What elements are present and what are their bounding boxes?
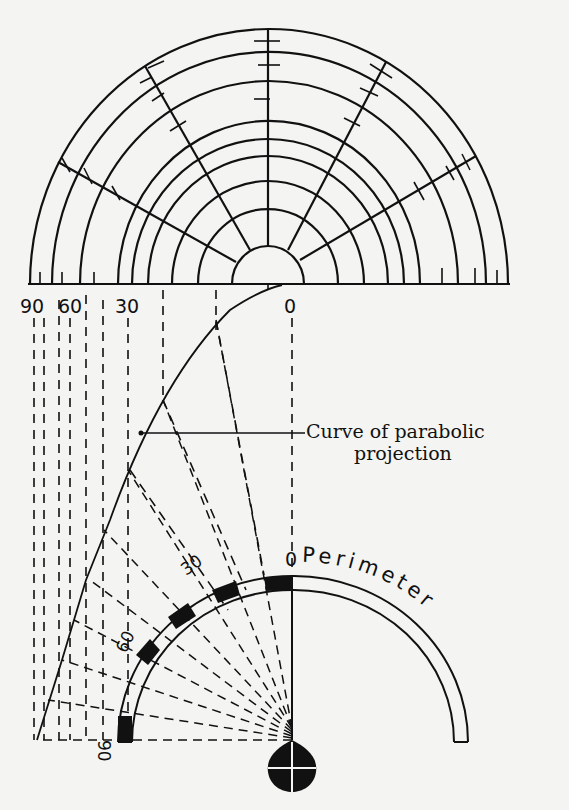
perimeter-projection-diagram: 90 60 30 0 xyxy=(0,0,569,810)
label-60: 60 xyxy=(58,295,82,317)
baseline-scale-labels: 90 60 30 0 xyxy=(20,295,296,317)
label-90: 90 xyxy=(20,295,44,317)
perimeter-label-90: 90 xyxy=(94,740,114,762)
diagram-canvas: 90 60 30 0 xyxy=(0,0,569,810)
label-30: 30 xyxy=(115,295,139,317)
eye-pivot-icon xyxy=(268,740,317,792)
callout-label-line2: projection xyxy=(354,442,452,464)
perimeter-label-60: 60 xyxy=(111,628,138,656)
label-0: 0 xyxy=(284,295,296,317)
perimeter-scale-blocks xyxy=(118,576,292,742)
top-polar-grid xyxy=(28,29,510,284)
perimeter-label-30: 30 xyxy=(177,550,206,579)
callout-label-line1: Curve of parabolic xyxy=(306,420,485,442)
fan-dashed-lines xyxy=(37,320,292,740)
perimeter-label-0: 0 xyxy=(285,548,297,570)
vertical-projection-lines xyxy=(34,290,292,740)
